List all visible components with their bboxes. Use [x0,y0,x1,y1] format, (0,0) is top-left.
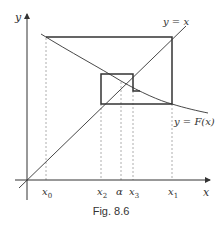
y-axis-label: y [14,11,22,24]
tick-x0: x0 [42,186,52,200]
cobweb-diagram: y x y = x y = F(x) x0 x2 α x3 x1 [0,0,222,226]
figure-caption: Fig. 8.6 [0,205,222,217]
tick-alpha: α [116,186,123,197]
tick-labels: x0 x2 α x3 x1 [42,186,178,200]
identity-line [19,26,186,188]
function-label: y = F(x) [173,116,215,127]
cobweb-path [46,37,172,104]
identity-label: y = x [162,16,189,27]
tick-x2: x2 [97,186,107,200]
tick-x3: x3 [129,186,139,200]
tick-x1: x1 [168,186,178,200]
x-axis-label: x [203,186,210,199]
dashed-guides [46,38,172,180]
